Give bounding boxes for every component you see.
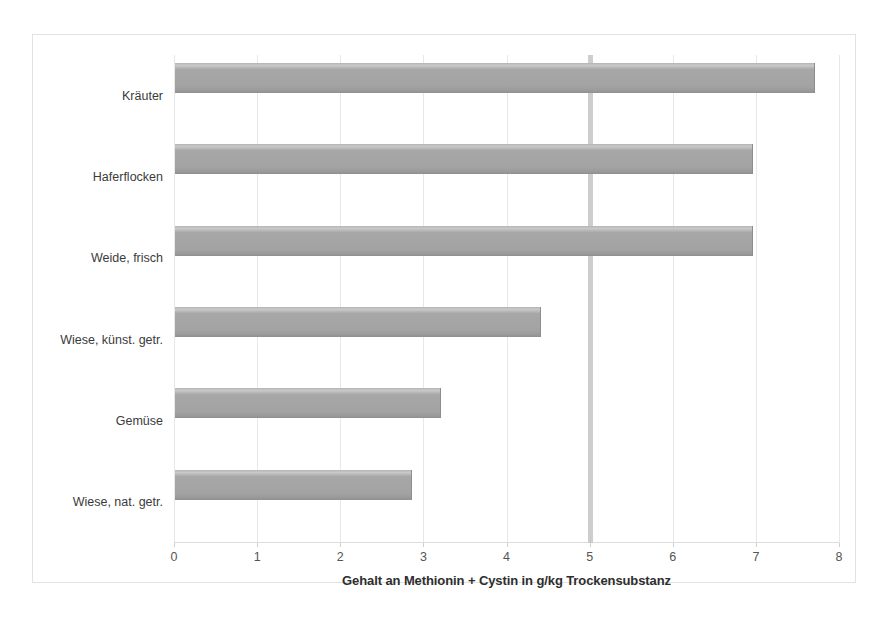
chart-frame: KräuterHaferflockenWeide, frischWiese, k… [32,34,856,583]
tick-mark [590,543,591,547]
category-label: Haferflocken [93,170,163,184]
category-label: Weide, frisch [91,251,163,265]
bar-row: Weide, frisch [174,218,839,299]
category-label: Wiese, nat. getr. [73,495,163,509]
bar[interactable] [175,307,541,337]
plot-area: KräuterHaferflockenWeide, frischWiese, k… [174,55,839,543]
category-label: Kräuter [122,89,163,103]
x-tick-label: 2 [337,550,344,564]
tick-mark [507,543,508,547]
gridline [839,55,840,543]
x-tick-label: 3 [420,550,427,564]
x-tick-label: 0 [171,550,178,564]
category-label: Gemüse [116,414,163,428]
bar[interactable] [175,144,753,174]
x-tick-label: 7 [752,550,759,564]
tick-mark [756,543,757,547]
bar-row: Haferflocken [174,136,839,217]
bar-row: Wiese, künst. getr. [174,299,839,380]
x-tick-label: 6 [669,550,676,564]
bar[interactable] [175,470,412,500]
bar[interactable] [175,63,815,93]
tick-mark [340,543,341,547]
category-label: Wiese, künst. getr. [60,333,163,347]
x-axis-title: Gehalt an Methionin + Cystin in g/kg Tro… [174,573,839,588]
tick-mark [423,543,424,547]
x-tick-label: 8 [836,550,843,564]
x-tick-label: 5 [586,550,593,564]
bar[interactable] [175,226,753,256]
tick-mark [257,543,258,547]
tick-mark [839,543,840,547]
tick-mark [673,543,674,547]
bar-row: Wiese, nat. getr. [174,462,839,543]
bar-row: Gemüse [174,380,839,461]
x-tick-label: 4 [503,550,510,564]
bar[interactable] [175,388,441,418]
bar-row: Kräuter [174,55,839,136]
x-tick-label: 1 [254,550,261,564]
tick-mark [174,543,175,547]
